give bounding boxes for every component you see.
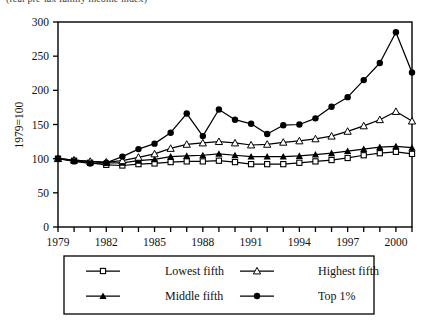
data-point-open-square — [100, 268, 105, 273]
data-point-open-square — [361, 153, 366, 158]
y-tick-label: 0 — [43, 221, 49, 233]
data-point-filled-circle — [328, 104, 334, 110]
legend: Lowest fifthHighest fifthMiddle fifthTop… — [64, 256, 379, 314]
data-point-open-square — [248, 162, 253, 167]
x-tick-label: 1988 — [191, 236, 214, 248]
data-point-filled-circle — [87, 160, 93, 166]
data-point-filled-circle — [377, 60, 383, 66]
y-tick-label: 100 — [32, 153, 50, 165]
x-tick-label: 1991 — [240, 236, 263, 248]
data-point-filled-circle — [71, 158, 77, 164]
data-point-filled-circle — [200, 133, 206, 139]
data-point-open-square — [345, 155, 350, 160]
y-axis-title: 1979=100 — [13, 101, 25, 148]
plot-frame — [58, 22, 412, 227]
data-point-filled-circle — [409, 69, 415, 75]
data-point-filled-circle — [312, 115, 318, 121]
data-point-open-square — [265, 162, 270, 167]
data-point-filled-circle — [167, 130, 173, 136]
y-tick-label: 50 — [38, 187, 50, 199]
x-tick-label: 1997 — [336, 236, 359, 248]
data-point-filled-circle — [248, 121, 254, 127]
data-point-filled-circle — [216, 106, 222, 112]
data-point-filled-circle — [151, 140, 157, 146]
x-tick-label: 2000 — [384, 236, 407, 248]
data-point-filled-circle — [264, 131, 270, 137]
data-point-filled-circle — [361, 77, 367, 83]
data-point-open-square — [168, 159, 173, 164]
y-tick-label: 250 — [32, 50, 50, 62]
data-point-open-square — [377, 151, 382, 156]
income-index-line-chart: 050100150200250300 197919821985198819911… — [0, 0, 438, 320]
data-point-open-square — [329, 157, 334, 162]
data-point-filled-circle — [232, 117, 238, 123]
data-point-open-square — [313, 159, 318, 164]
data-point-filled-circle — [296, 121, 302, 127]
data-point-filled-circle — [254, 293, 260, 299]
legend-label: Highest fifth — [318, 264, 379, 278]
x-axis: 19791982198519881991199419972000 — [47, 227, 413, 248]
data-point-filled-circle — [135, 146, 141, 152]
legend-label: Top 1% — [318, 289, 356, 303]
data-point-open-square — [393, 149, 398, 154]
x-tick-label: 1985 — [143, 236, 166, 248]
y-axis: 050100150200250300 — [32, 16, 58, 233]
data-point-open-square — [200, 159, 205, 164]
data-point-open-square — [409, 151, 414, 156]
legend-label: Lowest fifth — [165, 264, 224, 278]
data-point-open-square — [297, 160, 302, 165]
data-point-open-square — [184, 159, 189, 164]
data-point-filled-circle — [393, 29, 399, 35]
x-tick-label: 1979 — [47, 236, 70, 248]
data-point-open-square — [232, 159, 237, 164]
x-tick-label: 1994 — [288, 236, 311, 248]
x-tick-label: 1982 — [95, 236, 118, 248]
data-point-filled-circle — [103, 160, 109, 166]
data-point-filled-circle — [280, 122, 286, 128]
data-point-open-square — [281, 162, 286, 167]
data-point-filled-circle — [344, 94, 350, 100]
legend-label: Middle fifth — [165, 289, 223, 303]
y-tick-label: 150 — [32, 119, 50, 131]
data-point-filled-circle — [184, 110, 190, 116]
y-tick-label: 300 — [32, 16, 50, 28]
data-point-open-square — [216, 158, 221, 163]
data-point-filled-circle — [55, 155, 61, 161]
y-tick-label: 200 — [32, 84, 50, 96]
chart-figure: (real pre-tax family income index) 05010… — [0, 0, 438, 320]
data-point-filled-circle — [119, 153, 125, 159]
